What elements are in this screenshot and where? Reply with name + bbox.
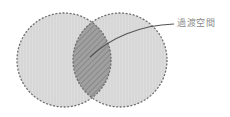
intersection-label: 過渡空間 — [177, 16, 215, 29]
